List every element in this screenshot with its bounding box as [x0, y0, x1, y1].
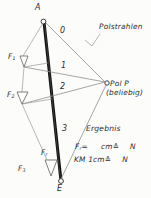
pole-P-marker: [105, 81, 109, 85]
label-point-E: E: [57, 184, 62, 193]
drawing-sheet: A E 0 1 2 3 Polstrahlen Pol P (beliebig)…: [0, 0, 151, 198]
label-point-A: A: [35, 3, 41, 12]
result-line-1: Fr=cm≙N: [75, 142, 136, 151]
result-unit-cm: cm: [101, 142, 113, 151]
result-corresponds-icon: ≙: [113, 142, 119, 151]
scale-corresponds-icon: ≙: [105, 155, 111, 164]
guide-line-F1-F2: [22, 67, 24, 92]
results-heading: Ergebnis: [86, 124, 121, 133]
result-newton-unit: N: [130, 142, 136, 151]
label-polstrahlen: Polstrahlen: [99, 22, 143, 31]
force-f2-subscript: 2: [12, 94, 15, 99]
polar-ray-0: [46, 23, 105, 82]
result-equals: =: [82, 142, 88, 151]
polstrahlen-leader: [85, 34, 100, 46]
label-force-f1: F1: [8, 52, 16, 61]
force-F1-arrowhead: [20, 56, 28, 67]
label-force-f3: F3: [18, 164, 26, 173]
force-f3-subscript: 3: [23, 168, 26, 173]
label-ray-0: 0: [60, 26, 65, 35]
guide-line-A-F1: [23, 23, 43, 56]
guide-line-F1-load: [24, 63, 48, 67]
force-F2-arrowhead: [17, 92, 28, 104]
result-line-2: KM 1cm≙N: [74, 155, 128, 164]
label-pole-note: (beliebig): [106, 88, 143, 97]
force-F3-arrowhead: [45, 160, 57, 176]
point-E-marker: [59, 179, 64, 184]
scale-newton-unit: N: [122, 155, 128, 164]
label-ray-3: 3: [62, 124, 67, 133]
label-force-resultant: Fr: [41, 148, 48, 157]
force-fr-subscript: r: [46, 152, 48, 157]
label-ray-1: 1: [61, 61, 66, 70]
scale-label: KM 1cm: [74, 155, 105, 164]
force-f1-subscript: 1: [13, 56, 16, 61]
label-ray-2: 2: [60, 82, 65, 91]
label-force-f2: F2: [7, 90, 15, 99]
label-pole-P: Pol P: [110, 79, 129, 88]
point-A-marker: [41, 19, 46, 24]
